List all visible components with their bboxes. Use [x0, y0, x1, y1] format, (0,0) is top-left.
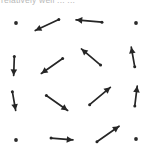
stationary-dot	[14, 138, 18, 142]
arrow-tail-dot	[57, 18, 60, 21]
vector-arrow	[95, 126, 119, 143]
arrow-tail-dot	[61, 57, 64, 60]
arrow-head	[129, 47, 135, 54]
arrow-tail-dot	[50, 137, 53, 140]
arrow-head	[76, 17, 82, 24]
vector-arrow	[11, 90, 18, 110]
vector-field-plot-area	[0, 10, 154, 159]
vector-arrow	[81, 49, 102, 67]
vector-arrow	[35, 18, 60, 31]
vector-arrow	[76, 17, 103, 24]
arrow-tail-dot	[88, 103, 91, 106]
vector-arrow	[88, 87, 110, 106]
arrow-head	[11, 104, 17, 111]
arrow-tail-dot	[133, 65, 136, 68]
vector-arrow	[45, 94, 68, 110]
arrow-tail-dot	[99, 64, 102, 67]
arrow-tail-dot	[13, 55, 16, 58]
arrow-tail-dot	[95, 140, 98, 143]
arrow-tail-dot	[45, 94, 48, 97]
caption-text: relatively well ... ...	[1, 0, 75, 6]
vector-arrow	[133, 86, 140, 107]
vector-field-canvas	[0, 10, 154, 159]
stationary-dot	[14, 21, 18, 25]
stationary-dot	[134, 137, 138, 141]
stationary-dot	[134, 21, 138, 25]
arrow-tail-dot	[11, 90, 14, 93]
vector-arrow	[41, 57, 64, 73]
arrow-head	[66, 136, 72, 143]
vector-arrow	[129, 47, 136, 68]
arrow-tail-dot	[133, 104, 136, 107]
vector-field-figure: relatively well ... ...	[0, 0, 154, 159]
markers-layer	[11, 17, 140, 143]
arrow-tail-dot	[100, 21, 103, 24]
vector-arrow	[11, 55, 18, 75]
arrow-head	[11, 69, 18, 75]
vector-arrow	[50, 136, 73, 143]
